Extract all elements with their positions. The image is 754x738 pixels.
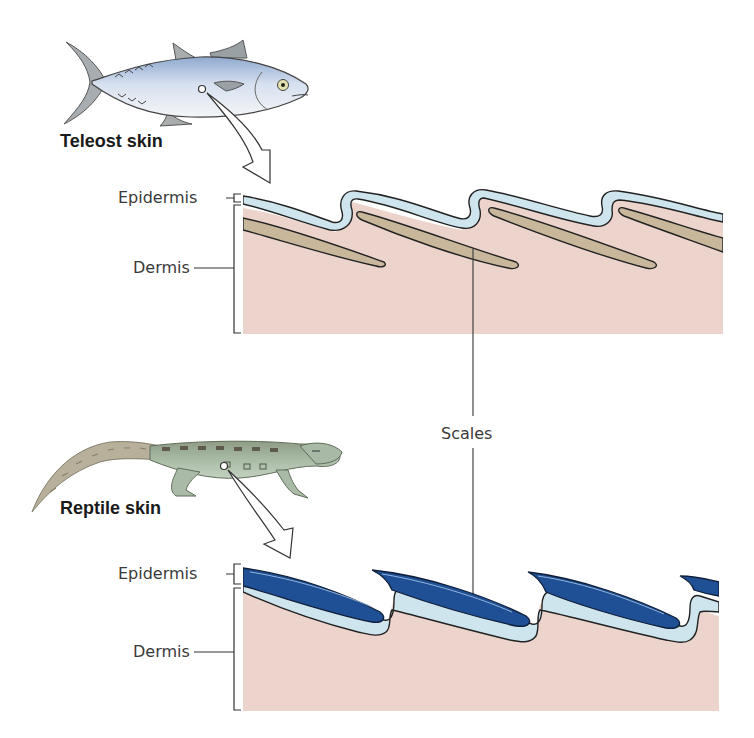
reptile-dermis-bracket	[194, 588, 241, 710]
reptile-dermis-label: Dermis	[133, 642, 190, 661]
reptile-scale	[680, 576, 719, 596]
reptile-skin-section	[243, 568, 719, 711]
teleost-layer-brackets	[194, 194, 241, 333]
reptile-epidermis-bracket	[226, 564, 241, 584]
lizard-hind-leg	[172, 468, 200, 496]
lizard-to-skin-arrow	[228, 470, 293, 558]
teleost-dermis-bracket	[194, 205, 241, 333]
fish-sample-marker	[199, 86, 206, 93]
teleost-dermis-label: Dermis	[133, 258, 190, 277]
reptile-layer-brackets	[194, 564, 241, 710]
reptile-skin-title: Reptile skin	[60, 498, 161, 519]
teleost-skin-title: Teleost skin	[60, 131, 163, 152]
tuna-fish-illustration	[64, 40, 308, 126]
teleost-skin-section	[243, 190, 723, 334]
lizard-front-leg	[276, 470, 308, 498]
lizard-sample-marker	[221, 463, 228, 470]
teleost-epidermis-bracket	[226, 194, 241, 202]
teleost-epidermis-label: Epidermis	[118, 188, 197, 207]
fish-second-dorsal-fin	[210, 40, 247, 58]
reptile-epidermis-label: Epidermis	[118, 564, 197, 583]
scales-label: Scales	[441, 424, 492, 443]
skin-scales-diagram	[0, 0, 754, 738]
